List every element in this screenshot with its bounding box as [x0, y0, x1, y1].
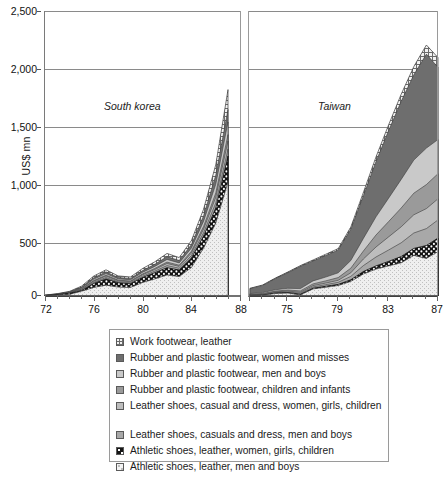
stacked-area-plot — [0, 0, 447, 320]
legend-item[interactable]: Rubber and plastic footwear, children an… — [116, 383, 382, 398]
legend-swatch-leather-casual-men — [116, 431, 124, 439]
legend-label: Rubber and plastic footwear, children an… — [130, 383, 350, 397]
legend-item[interactable]: Leather shoes, casuals and dress, men an… — [116, 428, 382, 443]
legend-item[interactable]: Rubber and plastic footwear, women and m… — [116, 351, 382, 366]
legend-label: Rubber and plastic footwear, men and boy… — [130, 367, 326, 381]
panel-title-south-korea: South korea — [104, 100, 161, 112]
legend-label: Work footwear, leather — [130, 335, 232, 349]
chart-legend: Work footwear, leather Rubber and plasti… — [109, 329, 389, 462]
legend-label: Leather shoes, casuals and dress, men an… — [130, 428, 352, 442]
legend-item[interactable]: Athletic shoes, leather, women, girls, c… — [116, 444, 382, 459]
legend-item[interactable]: Leather shoes, casual and dress, women, … — [116, 399, 382, 427]
x-tick-label-left-72: 72 — [33, 303, 59, 315]
legend-label: Leather shoes, casual and dress, women, … — [130, 399, 381, 413]
legend-swatch-rubber-children-infants — [116, 386, 124, 394]
x-tick-label-left-84: 84 — [178, 303, 204, 315]
x-tick-label-right-75: 75 — [274, 303, 300, 315]
legend-swatch-athletic-women — [116, 447, 124, 455]
legend-swatch-rubber-men-boys — [116, 370, 124, 378]
legend-label: Rubber and plastic footwear, women and m… — [130, 351, 349, 365]
x-tick-label-left-76: 76 — [81, 303, 107, 315]
legend-item[interactable]: Rubber and plastic footwear, men and boy… — [116, 367, 382, 382]
panel-title-taiwan: Taiwan — [318, 100, 351, 112]
chart-figure: US$ mn 2,500 2,000 1,500 1,000 500 0 — [0, 0, 447, 477]
x-tick-label-right-79: 79 — [324, 303, 350, 315]
legend-swatch-rubber-women-misses — [116, 354, 124, 362]
legend-label: Athletic shoes, leather, women, girls, c… — [130, 444, 334, 458]
x-tick-label-left-88: 88 — [228, 303, 254, 315]
legend-swatch-leather-casual-women — [116, 402, 124, 410]
legend-label: Athletic shoes, leather, men and boys — [130, 460, 299, 474]
legend-item[interactable]: Work footwear, leather — [116, 335, 382, 350]
legend-swatch-work-footwear-leather — [116, 338, 124, 346]
x-tick-label-left-80: 80 — [130, 303, 156, 315]
x-tick-label-right-87: 87 — [424, 303, 447, 315]
legend-swatch-athletic-men — [116, 463, 124, 471]
x-tick-label-right-83: 83 — [375, 303, 401, 315]
legend-item[interactable]: Athletic shoes, leather, men and boys — [116, 460, 382, 475]
